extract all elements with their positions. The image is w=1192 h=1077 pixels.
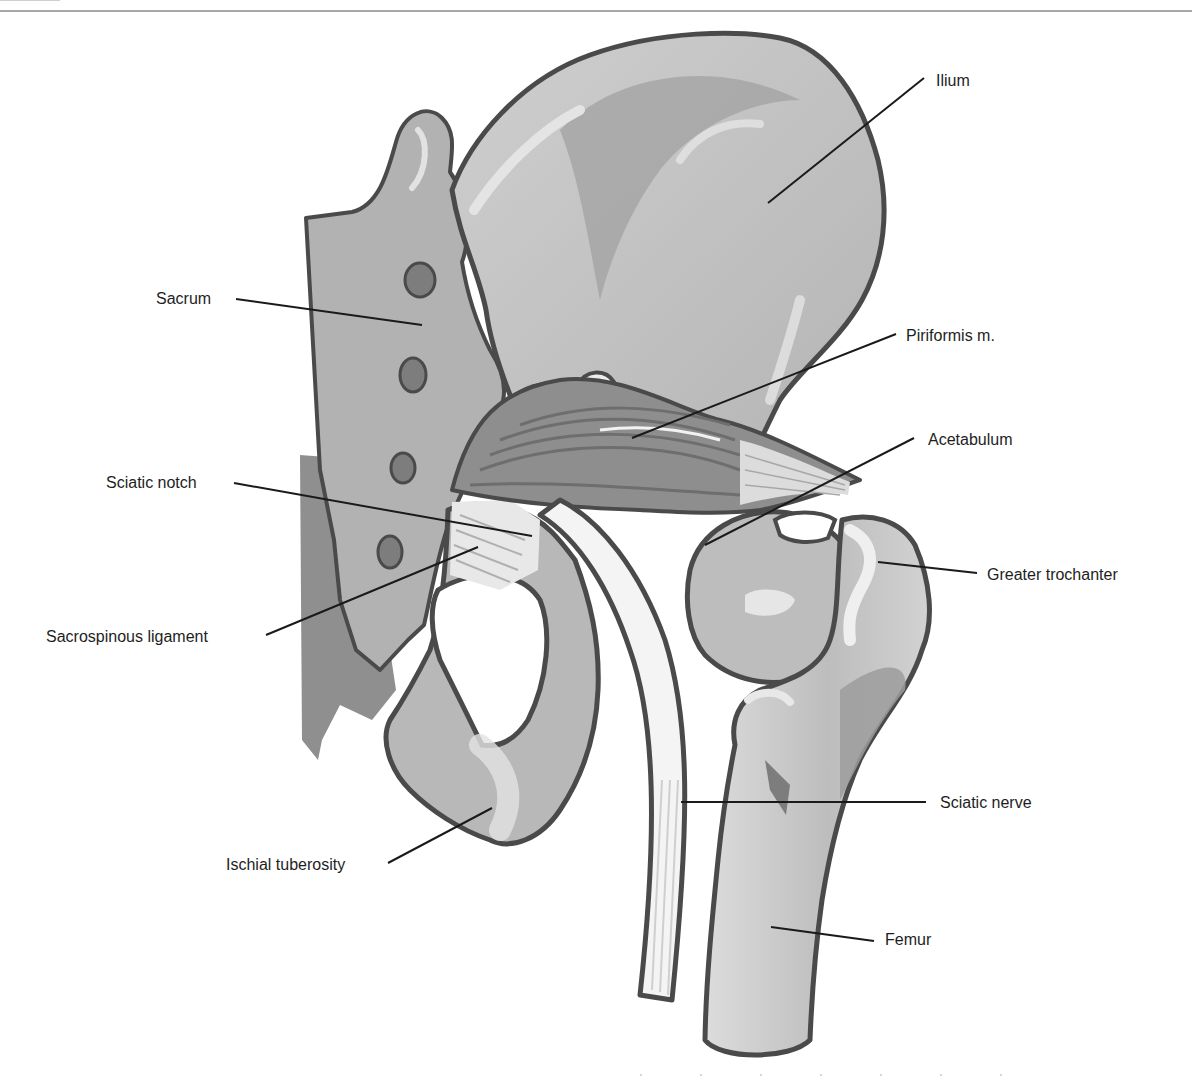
label-ischial-tuberosity: Ischial tuberosity <box>226 856 345 874</box>
label-sciatic-notch: Sciatic notch <box>106 474 197 492</box>
label-ilium: Ilium <box>936 72 970 90</box>
label-piriformis: Piriformis m. <box>906 327 995 345</box>
label-acetabulum: Acetabulum <box>928 431 1013 449</box>
label-sacrum: Sacrum <box>156 290 211 308</box>
bottom-edge-marks <box>640 1074 1020 1076</box>
hip-anatomy-illustration <box>0 0 1192 1077</box>
piriformis-muscle-shape <box>452 379 860 513</box>
label-sacrospinous-ligament: Sacrospinous ligament <box>46 628 208 646</box>
label-sciatic-nerve: Sciatic nerve <box>940 794 1032 812</box>
label-femur: Femur <box>885 931 931 949</box>
label-greater-trochanter: Greater trochanter <box>987 566 1118 584</box>
